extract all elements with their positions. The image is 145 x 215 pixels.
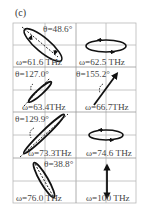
theta-label: θ=129.9° xyxy=(15,114,49,124)
grid-lines xyxy=(13,23,136,203)
omega-label: ω=63.4THz xyxy=(22,102,66,112)
omega-label: ω=61.6 THz xyxy=(16,57,62,67)
omega-label: ω=100 THz xyxy=(86,193,130,203)
theta-label: θ=127.0° xyxy=(15,69,49,79)
omega-label: ω=73.3THz xyxy=(28,148,72,158)
omega-label: ω=62.5 THz xyxy=(79,57,125,67)
omega-label: ω=66.7THz xyxy=(85,102,129,112)
theta-label: θ=48.6° xyxy=(43,24,73,34)
polarization-grid: θ=48.6° ω=61.6 THz ω=62.5 THz θ=127.0° ω… xyxy=(0,0,145,215)
theta-label: θ=38.8° xyxy=(44,159,74,169)
omega-label: ω=74.6 THz xyxy=(86,148,132,158)
omega-label: ω=76.0 THz xyxy=(16,193,62,203)
theta-label: θ=155.2° xyxy=(76,69,110,79)
